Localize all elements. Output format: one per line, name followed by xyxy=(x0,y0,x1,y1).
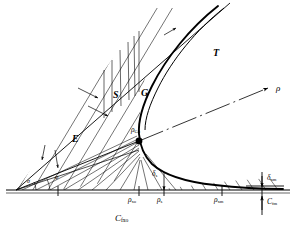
rho-Go-subscript: Go xyxy=(135,129,141,134)
C-fxo-subscript: fxo xyxy=(121,217,128,223)
delta-s-subscript: s xyxy=(156,173,158,178)
rho-xo-label: ρxo xyxy=(128,196,136,204)
technical-diagram: E S G T ρ ρGo ρxo ρs ρxm δs δxm Cfxo Cfm… xyxy=(0,0,293,233)
rho-s-subscript: s xyxy=(161,199,163,204)
rho-xm-label: ρxm xyxy=(214,196,223,204)
C-fxo-label: Cfxo xyxy=(115,214,128,224)
rho-Go-label: ρGo xyxy=(131,126,140,134)
rho-axis-line xyxy=(139,88,268,141)
angle-label-sigma: σ xyxy=(27,178,30,184)
diagram-canvas xyxy=(0,0,293,233)
main-curve-inner xyxy=(145,8,224,130)
main-boundary-curve xyxy=(139,6,283,189)
delta-s-label: δs xyxy=(152,170,157,178)
delta-xm-label: δxm xyxy=(267,174,276,182)
region-label-envelope: E xyxy=(72,134,79,144)
delta-xm-subscript: xm xyxy=(271,177,277,182)
region-label-shear: S xyxy=(113,90,119,100)
C-fm-label: Cfm xyxy=(267,198,277,206)
right-measure-lines xyxy=(246,172,284,215)
rho-xo-subscript: xo xyxy=(132,199,136,204)
flow-arrows xyxy=(42,28,176,168)
upper-envelope-ray xyxy=(16,3,230,190)
region-label-gap: G xyxy=(141,88,148,98)
rho-s-label: ρs xyxy=(157,196,162,204)
angle-label-phi: φ xyxy=(55,174,58,180)
rho-axis-arrow-label: ρ xyxy=(276,84,280,93)
hatch-shear-cells xyxy=(104,31,139,118)
rho-xm-subscript: xm xyxy=(218,199,224,204)
cusp-node-marker xyxy=(136,138,143,145)
region-label-tail: T xyxy=(213,48,219,58)
C-fm-subscript: fm xyxy=(272,201,277,206)
baseline-ticks xyxy=(58,186,222,196)
